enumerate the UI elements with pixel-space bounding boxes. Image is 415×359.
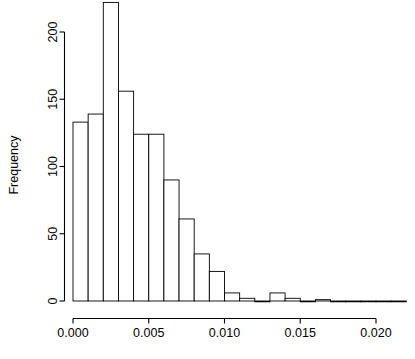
- histogram-bar: [73, 122, 88, 301]
- histogram-bar: [209, 271, 224, 301]
- x-tick-label: 0.005: [133, 326, 164, 340]
- histogram-bar: [134, 134, 149, 301]
- x-tick-label: 0.000: [57, 326, 88, 340]
- histogram-bar: [118, 91, 133, 301]
- histogram-bar: [149, 134, 164, 301]
- histogram-bar: [285, 298, 300, 301]
- x-tick-label: 0.010: [209, 326, 240, 340]
- y-tick-label: 0: [46, 297, 60, 304]
- histogram-bar: [346, 301, 361, 302]
- histogram-bar: [240, 298, 255, 301]
- histogram-bar: [331, 301, 346, 302]
- histogram-bar: [103, 2, 118, 301]
- histogram-svg: 050100150200 0.0000.0050.0100.0150.020 F…: [0, 0, 415, 359]
- histogram-bar: [164, 180, 179, 301]
- histogram-bar: [225, 293, 240, 301]
- y-tick-label: 100: [46, 156, 60, 177]
- histogram-bar: [270, 293, 285, 301]
- histogram-bar: [376, 301, 391, 302]
- y-axis-title: Frequency: [7, 135, 21, 195]
- histogram-bar: [391, 301, 406, 302]
- histogram-bar: [315, 300, 330, 301]
- x-tick-label: 0.015: [285, 326, 316, 340]
- histogram-bar: [361, 301, 376, 302]
- histogram-plot: 050100150200 0.0000.0050.0100.0150.020 F…: [0, 0, 415, 359]
- x-tick-label: 0.020: [360, 326, 391, 340]
- y-tick-label: 200: [46, 22, 60, 43]
- plot-background: [0, 0, 415, 359]
- y-tick-label: 50: [46, 227, 60, 241]
- histogram-bar: [255, 301, 270, 302]
- histogram-bar: [194, 254, 209, 301]
- histogram-bar: [88, 114, 103, 301]
- y-tick-label: 150: [46, 89, 60, 110]
- histogram-bar: [300, 301, 315, 302]
- histogram-bar: [179, 219, 194, 301]
